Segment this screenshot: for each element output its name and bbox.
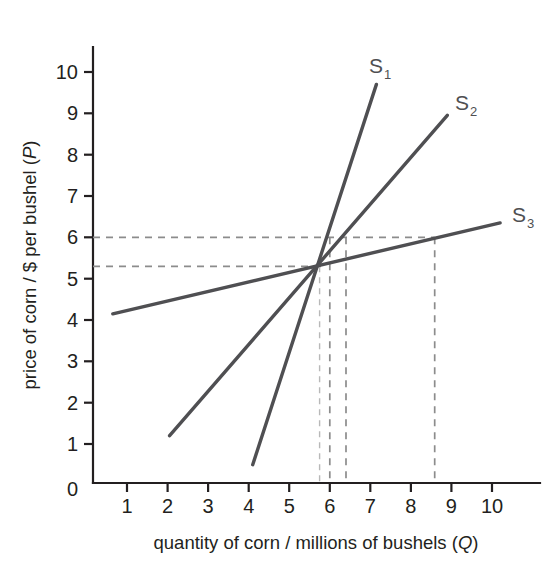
series-label-s3-sub: 3 (527, 216, 534, 231)
x-axis-title-text: quantity of corn / millions of bushels ( (154, 532, 459, 553)
origin-label: 0 (67, 478, 78, 500)
y-ticks-group (84, 72, 93, 444)
x-tick-label-4: 4 (243, 495, 254, 517)
y-axis-title-close: ) (19, 141, 40, 147)
series-labels-group: S1 S2 S3 (369, 54, 534, 231)
series-label-s2-base: S (455, 91, 469, 114)
x-tick-label-7: 7 (365, 495, 376, 517)
x-tick-label-2: 2 (162, 495, 173, 517)
y-tick-label-3: 3 (67, 350, 78, 372)
chart-svg: 10 9 8 7 6 5 4 3 2 1 0 1 2 (0, 0, 558, 575)
y-tick-label-7: 7 (67, 185, 78, 207)
x-tick-label-10: 10 (481, 495, 503, 517)
x-axis-title-var: Q (458, 532, 472, 553)
y-tick-labels-group: 10 9 8 7 6 5 4 3 2 1 0 (56, 61, 78, 500)
y-axis-title: price of corn / $ per bushel (P) (19, 141, 40, 390)
series-label-s3: S3 (512, 203, 534, 231)
series-label-s3-base: S (512, 203, 526, 226)
guide-lines-group (93, 237, 435, 483)
y-tick-label-8: 8 (67, 144, 78, 166)
x-tick-label-3: 3 (203, 495, 214, 517)
y-tick-label-5: 5 (67, 268, 78, 290)
y-tick-label-10: 10 (56, 61, 78, 83)
series-label-s1-sub: 1 (384, 67, 391, 82)
series-label-s2-sub: 2 (470, 104, 477, 119)
y-axis-title-var: P (19, 146, 40, 159)
y-tick-label-9: 9 (67, 102, 78, 124)
x-tick-labels-group: 1 2 3 4 5 6 7 8 9 10 (121, 495, 503, 517)
x-tick-label-8: 8 (405, 495, 416, 517)
x-axis-title-close: ) (472, 532, 478, 553)
y-axis-title-text: price of corn / $ per bushel ( (19, 158, 40, 389)
supply-curve-s1[interactable] (253, 84, 377, 464)
series-label-s2: S2 (455, 91, 477, 119)
x-ticks-group (127, 483, 492, 492)
y-tick-label-2: 2 (67, 392, 78, 414)
y-tick-label-1: 1 (67, 433, 78, 455)
supply-curves-chart: 10 9 8 7 6 5 4 3 2 1 0 1 2 (0, 0, 558, 575)
series-label-s1-base: S (369, 54, 383, 77)
x-tick-label-5: 5 (284, 495, 295, 517)
x-tick-label-1: 1 (121, 495, 132, 517)
x-tick-label-9: 9 (446, 495, 457, 517)
series-label-s1: S1 (369, 54, 391, 82)
y-tick-label-6: 6 (67, 226, 78, 248)
y-tick-label-4: 4 (67, 309, 78, 331)
x-tick-label-6: 6 (324, 495, 335, 517)
supply-curve-s2[interactable] (170, 115, 448, 435)
x-axis-title: quantity of corn / millions of bushels (… (154, 532, 479, 553)
supply-curves-group (113, 84, 500, 464)
